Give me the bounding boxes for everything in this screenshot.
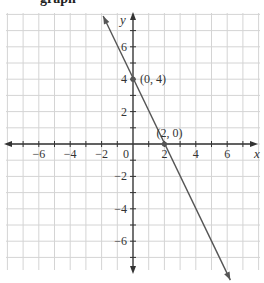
y-axis-label: y	[118, 12, 126, 27]
data-point	[130, 77, 135, 82]
y-tick-label: 4	[121, 72, 127, 86]
x-tick-label: −6	[32, 147, 45, 161]
line-start-arrow-icon	[103, 16, 109, 25]
y-axis-up-arrow-icon	[130, 12, 136, 20]
x-tick-label: 4	[193, 147, 199, 161]
y-tick-label: −2	[114, 169, 127, 183]
x-tick-label: 6	[224, 147, 230, 161]
y-tick-label: 6	[121, 40, 127, 54]
y-tick-label: 2	[121, 105, 127, 119]
x-tick-label: 0	[123, 147, 129, 161]
coordinate-graph: graph xy −6−4−20246−6−4−2246 (0, 4)(2, 0…	[0, 0, 264, 283]
x-axis-left-arrow-icon	[4, 141, 12, 147]
line-end-arrow-icon	[224, 272, 230, 281]
point-label: (2, 0)	[156, 126, 182, 140]
y-axis-down-arrow-icon	[130, 266, 136, 274]
title-fragment: graph	[40, 0, 76, 6]
x-tick-label: −4	[64, 147, 77, 161]
y-tick-label: −4	[114, 202, 127, 216]
axes: xy	[4, 12, 260, 274]
y-tick-label: −6	[114, 234, 127, 248]
data-point	[162, 141, 167, 146]
point-label: (0, 4)	[140, 72, 166, 86]
x-tick-label: −2	[95, 147, 108, 161]
plotted-points: (0, 4)(2, 0)	[130, 72, 182, 146]
x-axis-label: x	[253, 146, 260, 161]
